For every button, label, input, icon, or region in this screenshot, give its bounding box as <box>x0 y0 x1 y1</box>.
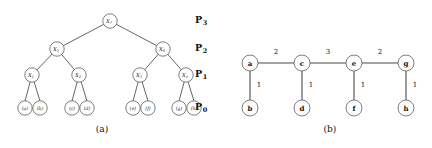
tree-node-x4-sub: 4 <box>185 75 188 79</box>
tree-diagram: X7 X5 X6 X1 <box>0 0 204 124</box>
graph-node-g: g <box>398 55 414 71</box>
panel-a-caption: (a) <box>0 124 204 134</box>
tree-leaf-d-label: (d) <box>84 106 91 111</box>
tree-node-x5: X5 <box>50 42 64 56</box>
tree-leaf-d: (d) <box>80 101 94 115</box>
graph-diagram: a c e g b d <box>228 0 432 124</box>
tree-node-x3: X3 <box>133 68 147 82</box>
tree-node-x1: X1 <box>25 68 39 82</box>
graph-weight-a-c: 2 <box>274 48 278 56</box>
graph-node-h: h <box>398 100 414 116</box>
tree-edge-root-right <box>110 21 163 49</box>
level-label-p1-base: P <box>195 68 202 79</box>
graph-node-d: d <box>294 100 310 116</box>
level-label-p2-sub: 2 <box>203 47 208 55</box>
tree-leaf-a-label: (a) <box>22 106 29 111</box>
tree-leaf-c-label: (c) <box>69 106 75 111</box>
graph-weight-c-e: 3 <box>326 48 330 56</box>
level-label-p3-sub: 3 <box>203 19 208 27</box>
tree-edge-root-left <box>57 21 110 49</box>
tree-leaf-f-label: (f) <box>145 106 150 111</box>
tree-leaf-f: (f) <box>141 101 155 115</box>
graph-node-f: f <box>346 100 362 116</box>
tree-leaf-b-label: (b) <box>37 106 44 111</box>
level-label-p3-base: P <box>195 14 202 25</box>
graph-weight-c-d: 1 <box>309 81 313 89</box>
tree-leaf-g: (g) <box>172 101 186 115</box>
graph-node-d-label: d <box>300 104 305 113</box>
graph-node-e: e <box>346 55 362 71</box>
level-label-p3: P3 <box>195 14 207 25</box>
graph-node-a-label: a <box>248 59 253 68</box>
graph-node-h-label: h <box>403 104 408 113</box>
panel-b-weighted-graph: a c e g b d <box>228 0 432 148</box>
tree-leaf-b: (b) <box>33 101 47 115</box>
tree-node-x2: X2 <box>72 68 86 82</box>
graph-weight-g-h: 1 <box>413 81 417 89</box>
graph-node-c-label: c <box>300 59 304 68</box>
graph-node-b: b <box>242 100 258 116</box>
tree-node-x6: X6 <box>156 42 170 56</box>
level-label-p0-base: P <box>195 101 202 112</box>
level-label-p0-sub: 0 <box>203 106 208 114</box>
level-label-p0: P0 <box>195 101 207 112</box>
graph-node-b-label: b <box>248 104 253 113</box>
level-label-p2-base: P <box>195 42 202 53</box>
tree-leaf-e: (e) <box>126 101 140 115</box>
panel-b-caption: (b) <box>228 124 432 134</box>
tree-node-x1-sub: 1 <box>32 75 34 79</box>
graph-node-g-label: g <box>404 59 409 68</box>
graph-weight-e-f: 1 <box>361 81 365 89</box>
graph-node-c: c <box>294 55 310 71</box>
level-label-p1: P1 <box>195 68 207 79</box>
graph-node-a: a <box>242 55 258 71</box>
tree-node-x4: X4 <box>179 68 193 82</box>
tree-leaf-c: (c) <box>65 101 79 115</box>
tree-node-root: X7 <box>103 14 117 28</box>
level-label-p2: P2 <box>195 42 207 53</box>
level-label-p1-sub: 1 <box>203 73 208 81</box>
tree-leaf-a: (a) <box>18 101 32 115</box>
panel-a-hierarchy-tree: X7 X5 X6 X1 <box>0 0 228 148</box>
graph-weight-a-b: 1 <box>257 81 261 89</box>
graph-weight-e-g: 2 <box>378 48 382 56</box>
tree-leaf-e-label: (e) <box>130 106 137 111</box>
figure-container: X7 X5 X6 X1 <box>0 0 432 148</box>
graph-node-e-label: e <box>352 59 357 68</box>
